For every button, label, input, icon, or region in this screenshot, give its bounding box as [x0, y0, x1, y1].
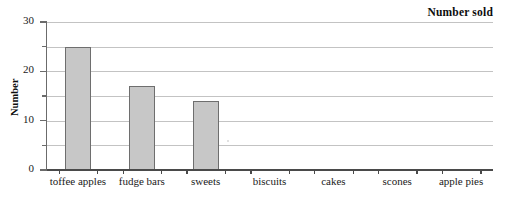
x-axis-label: toffee apples	[50, 175, 106, 187]
bar	[129, 86, 155, 170]
bar-chart-figure: Number sold Number 0102030 toffee apples…	[0, 0, 506, 198]
y-axis-label: 20	[8, 63, 34, 75]
x-axis-label: fudge bars	[119, 175, 165, 187]
y-axis-label: 0	[8, 162, 34, 174]
gridline	[46, 96, 493, 97]
gridline	[46, 71, 493, 72]
x-axis-tick	[250, 169, 251, 174]
x-axis-label: apple pies	[439, 175, 483, 187]
y-axis-tick-minor	[42, 145, 47, 146]
x-axis-tick	[378, 169, 379, 174]
x-axis-tick	[289, 169, 290, 174]
y-axis-tick-major	[40, 71, 47, 72]
y-axis-tick-major	[40, 21, 47, 22]
x-axis-label: sweets	[191, 175, 220, 187]
y-axis-label: 10	[8, 113, 34, 125]
x-axis-tick	[480, 169, 481, 174]
y-axis-tick-minor	[42, 46, 47, 47]
y-axis-tick-major	[40, 169, 47, 170]
gridline	[46, 121, 493, 122]
bar	[193, 101, 219, 170]
gridline	[46, 22, 493, 23]
x-axis-tick	[123, 169, 124, 174]
x-axis-label: scones	[383, 175, 412, 187]
bar	[65, 47, 91, 170]
y-axis-label: 30	[8, 14, 34, 26]
x-axis-label: cakes	[321, 175, 345, 187]
y-axis-tick-major	[40, 120, 47, 121]
x-axis-label: biscuits	[253, 175, 287, 187]
y-axis-tick-minor	[42, 95, 47, 96]
plot-area	[46, 22, 493, 170]
x-axis-tick	[353, 169, 354, 174]
x-axis-line	[46, 169, 493, 171]
chart-title: Number sold	[427, 6, 493, 18]
x-axis-tick	[59, 169, 60, 174]
gridline	[46, 47, 493, 48]
x-axis-tick	[161, 169, 162, 174]
x-axis-tick	[186, 169, 187, 174]
x-axis-tick	[314, 169, 315, 174]
x-axis-tick	[416, 169, 417, 174]
scan-artifact-speck	[227, 140, 229, 142]
gridline	[46, 145, 493, 146]
x-axis-tick	[442, 169, 443, 174]
x-axis-tick	[97, 169, 98, 174]
x-axis-tick	[225, 169, 226, 174]
